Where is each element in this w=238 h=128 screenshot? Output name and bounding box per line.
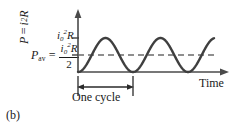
x-axis-label: Time — [199, 76, 224, 91]
panel-caption: (b) — [6, 108, 20, 123]
ac-power-figure: P=i2R Pav = i02R 2 i02R — [0, 0, 238, 128]
plot-area — [0, 0, 238, 128]
one-cycle-label: One cycle — [72, 90, 120, 105]
x-axis — [78, 69, 229, 76]
y-axis — [75, 9, 82, 72]
